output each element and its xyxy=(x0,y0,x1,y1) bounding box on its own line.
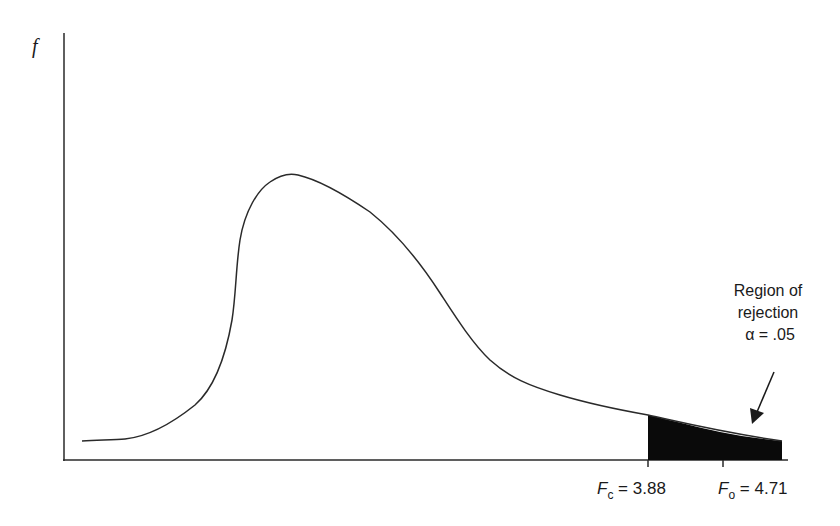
annotation-line-1: Region of xyxy=(734,282,803,299)
fc-label: Fc = 3.88 xyxy=(597,479,666,502)
fo-label: Fo = 4.71 xyxy=(718,479,788,502)
y-axis-label: f xyxy=(32,35,40,58)
annotation-line-2: rejection xyxy=(738,304,798,321)
f-distribution-chart: f Fc = 3.88 Fo = 4.71 Region of rejectio… xyxy=(0,0,840,526)
annotation-arrow-icon xyxy=(750,372,774,424)
f-density-curve xyxy=(82,174,782,441)
annotation-alpha: α = .05 xyxy=(745,326,795,343)
